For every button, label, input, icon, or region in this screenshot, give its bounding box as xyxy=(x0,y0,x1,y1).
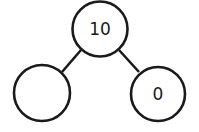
connector-right xyxy=(119,50,139,72)
connector-left xyxy=(62,50,81,72)
part-right-value: 0 xyxy=(138,84,178,104)
whole-value: 10 xyxy=(80,19,120,39)
part-left-circle xyxy=(14,65,70,121)
number-bond-diagram: 10 0 xyxy=(0,0,199,132)
